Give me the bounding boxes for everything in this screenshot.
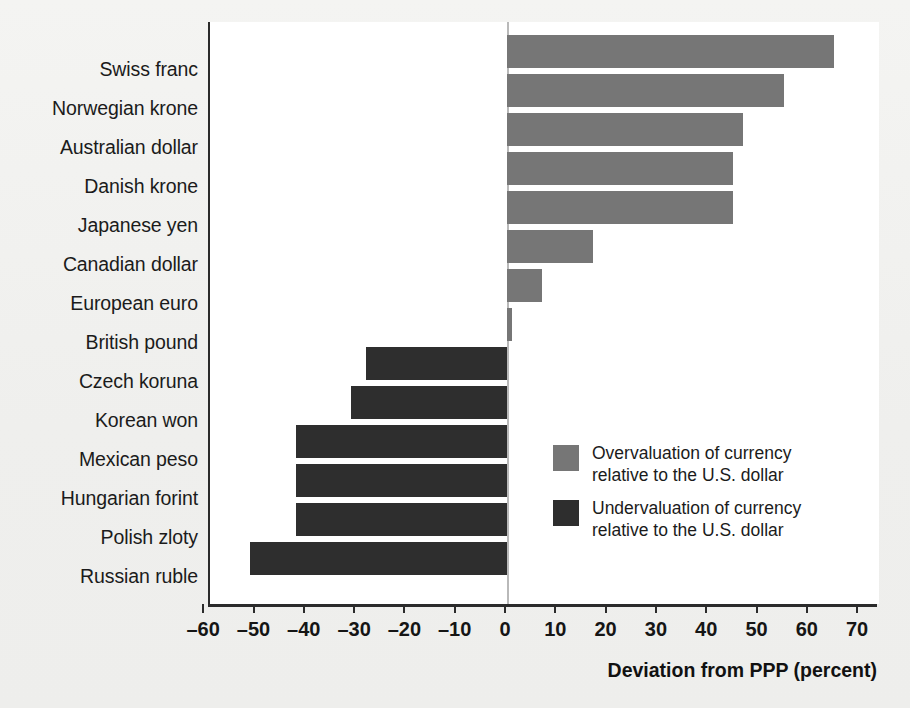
x-tick-label-30: 30 bbox=[645, 618, 667, 641]
bar-mexican-peso bbox=[296, 425, 507, 458]
x-tick-60 bbox=[806, 604, 808, 613]
category-label-japanese-yen: Japanese yen bbox=[0, 216, 198, 236]
bar-european-euro bbox=[507, 269, 542, 302]
bar-danish-krone bbox=[507, 152, 733, 185]
legend-entry-undervaluation: Undervaluation of currency relative to t… bbox=[553, 498, 863, 541]
x-tick-label-20: 20 bbox=[594, 618, 616, 641]
plot-area: Overvaluation of currency relative to th… bbox=[208, 22, 879, 604]
x-tick-label--40: –40 bbox=[287, 618, 320, 641]
category-label-czech-koruna: Czech koruna bbox=[0, 372, 198, 392]
legend-swatch-overvaluation-icon bbox=[553, 445, 579, 471]
category-label-polish-zloty: Polish zloty bbox=[0, 528, 198, 548]
category-label-korean-won: Korean won bbox=[0, 411, 198, 431]
bar-hungarian-forint bbox=[296, 464, 507, 497]
bar-czech-koruna bbox=[366, 347, 507, 380]
chart-figure: Swiss franc Norwegian krone Australian d… bbox=[0, 0, 910, 708]
x-tick--20 bbox=[403, 604, 405, 613]
x-tick--50 bbox=[253, 604, 255, 613]
category-label-danish-krone: Danish krone bbox=[0, 177, 198, 197]
x-tick-20 bbox=[605, 604, 607, 613]
legend-swatch-undervaluation-icon bbox=[553, 500, 579, 526]
legend-entry-overvaluation: Overvaluation of currency relative to th… bbox=[553, 443, 863, 486]
x-tick-label-60: 60 bbox=[796, 618, 818, 641]
bar-norwegian-krone bbox=[507, 74, 784, 107]
bar-canadian-dollar bbox=[507, 230, 593, 263]
category-label-australian-dollar: Australian dollar bbox=[0, 138, 198, 158]
category-label-russian-ruble: Russian ruble bbox=[0, 567, 198, 587]
x-tick--30 bbox=[353, 604, 355, 613]
category-axis-labels: Swiss franc Norwegian krone Australian d… bbox=[0, 22, 198, 604]
bar-japanese-yen bbox=[507, 191, 733, 224]
x-axis-line bbox=[208, 604, 877, 607]
x-tick-label-70: 70 bbox=[846, 618, 868, 641]
bar-swiss-franc bbox=[507, 35, 834, 68]
x-tick-label-0: 0 bbox=[499, 618, 510, 641]
bar-australian-dollar bbox=[507, 113, 743, 146]
chart-legend: Overvaluation of currency relative to th… bbox=[553, 443, 863, 554]
category-label-canadian-dollar: Canadian dollar bbox=[0, 255, 198, 275]
x-tick--60 bbox=[202, 604, 204, 613]
x-tick-label--60: –60 bbox=[187, 618, 220, 641]
x-tick-label--50: –50 bbox=[237, 618, 270, 641]
legend-label-overvaluation: Overvaluation of currency relative to th… bbox=[592, 443, 791, 486]
category-label-mexican-peso: Mexican peso bbox=[0, 450, 198, 470]
bar-british-pound bbox=[507, 308, 512, 341]
x-axis-title: Deviation from PPP (percent) bbox=[510, 659, 877, 682]
x-tick-label-50: 50 bbox=[745, 618, 767, 641]
bar-korean-won bbox=[351, 386, 507, 419]
category-label-norwegian-krone: Norwegian krone bbox=[0, 99, 198, 119]
x-tick-30 bbox=[655, 604, 657, 613]
x-tick-10 bbox=[554, 604, 556, 613]
category-label-swiss-franc: Swiss franc bbox=[0, 60, 198, 80]
bar-polish-zloty bbox=[296, 503, 507, 536]
x-tick--40 bbox=[303, 604, 305, 613]
bar-russian-ruble bbox=[250, 542, 507, 575]
x-tick-label-10: 10 bbox=[544, 618, 566, 641]
category-label-hungarian-forint: Hungarian forint bbox=[0, 489, 198, 509]
x-tick-70 bbox=[856, 604, 858, 613]
x-tick--10 bbox=[454, 604, 456, 613]
category-label-british-pound: British pound bbox=[0, 333, 198, 353]
x-tick-label--30: –30 bbox=[337, 618, 370, 641]
category-label-european-euro: European euro bbox=[0, 294, 198, 314]
x-tick-label--20: –20 bbox=[388, 618, 421, 641]
x-tick-40 bbox=[705, 604, 707, 613]
x-tick-label--10: –10 bbox=[438, 618, 471, 641]
x-tick-50 bbox=[756, 604, 758, 613]
x-tick-0 bbox=[504, 604, 506, 613]
legend-label-undervaluation: Undervaluation of currency relative to t… bbox=[592, 498, 801, 541]
x-tick-label-40: 40 bbox=[695, 618, 717, 641]
